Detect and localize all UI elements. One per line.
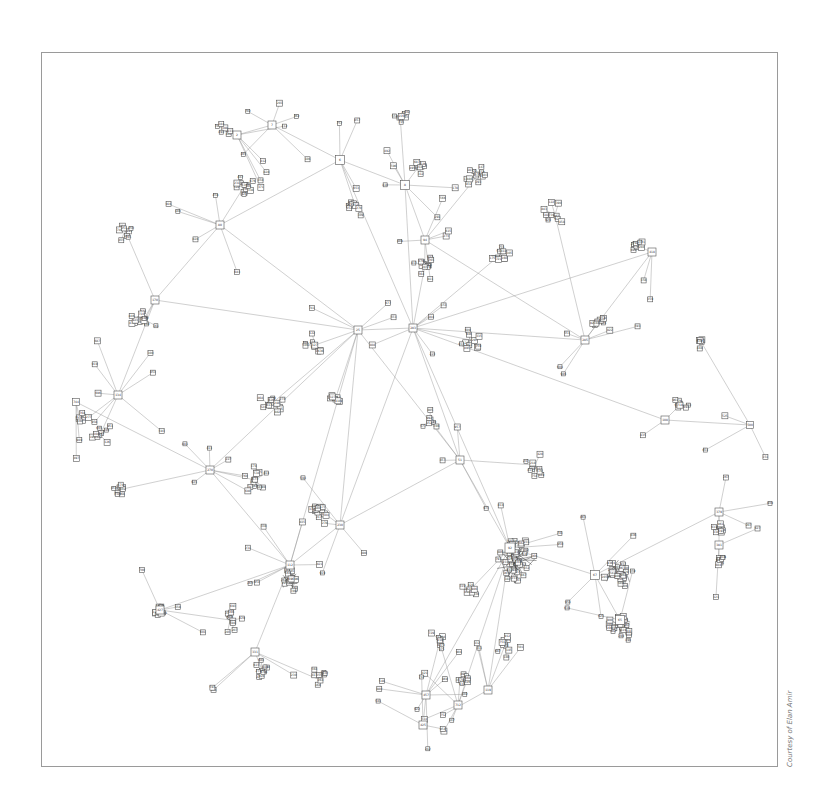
edge [97,341,118,395]
graph-node: 564 [311,667,317,672]
graph-node: 468 [257,395,263,401]
graph-node: 137 [459,682,465,686]
graph-node: 7 [268,121,276,129]
graph-node: 285 [581,336,589,344]
graph-node: 667 [521,573,527,578]
svg-text:814: 814 [263,471,269,475]
edge [358,303,388,330]
nodes-layer: 3198908033115389722703523097959333126871… [73,100,773,751]
graph-node: 814 [263,471,269,475]
svg-text:710: 710 [138,312,144,316]
edge [125,230,155,300]
graph-node: 103 [482,173,488,178]
svg-text:765: 765 [428,258,434,262]
edge [178,211,220,225]
graph-node: 497 [73,456,79,462]
svg-text:718: 718 [677,403,683,407]
graph-node: 665 [96,426,102,430]
svg-text:152: 152 [524,566,530,570]
graph-node: 805 [427,408,433,413]
graph-node: 80 [216,221,224,229]
graph-node: 134 [114,391,122,399]
svg-text:627: 627 [755,526,761,530]
graph-node: 216 [398,113,404,119]
graph-node: 582 [518,541,524,546]
graph-node: 900 [607,617,613,623]
svg-text:283: 283 [410,326,416,330]
svg-text:170: 170 [152,298,158,302]
graph-node: 455 [118,238,124,243]
svg-text:137: 137 [459,682,465,686]
graph-node: 119 [621,628,627,633]
svg-text:151: 151 [763,455,769,459]
svg-text:992: 992 [426,416,432,420]
edge [413,328,665,420]
graph-node: 904 [456,650,462,655]
svg-text:274: 274 [280,397,286,401]
svg-text:919: 919 [319,571,325,575]
graph-node: 250 [509,562,515,566]
svg-text:223: 223 [430,352,436,356]
graph-node: 848 [262,665,268,669]
edge [220,225,237,272]
svg-text:112: 112 [287,563,293,567]
svg-text:957: 957 [454,425,460,429]
svg-text:754: 754 [532,474,538,478]
graph-node: 231 [245,545,251,550]
graph-node: 267 [723,475,729,480]
graph-node: 25 [354,326,362,334]
svg-text:604: 604 [557,365,563,369]
graph-node: 828 [264,170,270,175]
edge [470,548,510,590]
edge [379,689,426,695]
svg-text:577: 577 [420,424,426,428]
graph-node: 338 [261,524,267,529]
svg-text:291: 291 [435,215,441,219]
svg-text:581: 581 [543,213,549,217]
svg-text:879: 879 [418,259,424,263]
svg-text:65: 65 [618,618,622,622]
graph-node: 617 [266,403,272,408]
svg-text:121: 121 [713,595,719,599]
graph-node: 919 [319,571,325,575]
svg-text:366: 366 [531,554,537,558]
graph-node: 270 [356,206,362,212]
svg-text:792: 792 [633,241,639,245]
svg-text:751: 751 [499,640,505,644]
graph-node: 693 [230,604,236,610]
edge [118,373,153,395]
graph-node: 594 [230,621,236,626]
graph-node: 677 [385,301,391,306]
svg-text:489: 489 [397,239,403,243]
graph-node: 284 [428,314,434,319]
svg-text:534: 534 [254,471,260,475]
svg-text:687: 687 [495,649,501,653]
svg-text:961: 961 [718,522,724,526]
svg-text:558: 558 [175,605,181,609]
svg-text:693: 693 [230,604,236,608]
svg-text:932: 932 [466,182,472,186]
graph-node: 922 [414,707,420,711]
graph-node: 344 [218,122,224,127]
svg-text:954: 954 [440,727,446,731]
svg-text:596: 596 [391,164,397,168]
graph-node: 949 [76,438,82,443]
svg-text:435: 435 [640,433,646,437]
edge [700,340,750,425]
graph-node: 340 [141,316,147,320]
edge [118,353,150,395]
edge [413,328,460,460]
svg-text:933: 933 [459,342,465,346]
svg-text:340: 340 [141,316,147,320]
svg-text:305: 305 [506,251,512,255]
edge [169,204,220,225]
graph-node: 311 [476,646,482,650]
svg-text:227: 227 [225,457,231,461]
svg-text:946: 946 [560,372,566,376]
svg-text:112: 112 [282,124,288,128]
graph-node: 958 [92,420,98,425]
graph-node: 270 [206,466,214,474]
svg-text:696: 696 [95,391,101,395]
edge [237,125,272,135]
graph-node: 801 [615,565,621,569]
